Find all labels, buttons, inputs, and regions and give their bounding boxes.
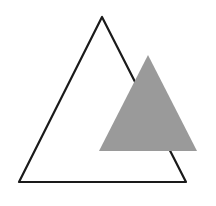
- diagram-canvas: [0, 0, 216, 206]
- triangles-figure: [0, 0, 216, 206]
- filled-gray-triangle: [99, 55, 197, 151]
